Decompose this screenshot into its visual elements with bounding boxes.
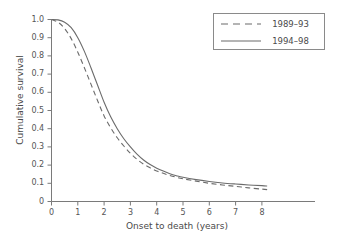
x-axis-ticks: [52, 202, 262, 206]
y-axis-title: Cumulative survival: [15, 35, 25, 165]
y-tick-label: 1.0: [10, 15, 44, 24]
legend-box: 1989–93 1994–98: [213, 13, 325, 50]
y-tick-label: 0: [10, 197, 44, 206]
legend-sample-dashed-icon: [221, 19, 261, 29]
legend-entry-1989-93: 1989–93: [214, 15, 326, 32]
y-axis-ticks: [48, 20, 52, 202]
y-tick-label: 0.1: [10, 178, 44, 187]
legend-label-1989-93: 1989–93: [261, 19, 326, 29]
legend-label-1994-98: 1994–98: [261, 36, 326, 46]
legend-sample-solid-icon: [221, 36, 261, 46]
x-axis-title: Onset to death (years): [48, 221, 306, 231]
x-tick-label: 8: [247, 208, 277, 217]
survival-chart-figure: 00.10.20.30.40.50.60.70.80.91.0 01234567…: [0, 0, 341, 243]
legend-entry-1994-98: 1994–98: [214, 32, 326, 49]
